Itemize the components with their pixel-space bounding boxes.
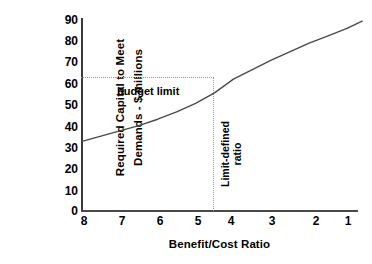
x-tick-2: 2 — [306, 214, 326, 228]
y-tick-30: 30 — [54, 142, 78, 154]
x-tick-3: 3 — [262, 214, 282, 228]
x-axis-line — [81, 210, 358, 212]
x-tick-8: 8 — [74, 214, 94, 228]
x-axis-tick-labels: 8 7 6 5 4 3 2 1 — [0, 214, 372, 234]
y-axis-line — [81, 18, 83, 212]
y-tick-70: 70 — [54, 56, 78, 68]
annotation-budget-limit: budget limit — [117, 85, 179, 97]
annotation-limit-defined-ratio: Limit-defined ratio — [214, 104, 248, 204]
y-tick-60: 60 — [54, 78, 78, 90]
budget-limit-guide-line — [81, 77, 214, 78]
y-axis-tick-labels: 90 80 70 60 50 40 30 20 10 0 — [52, 0, 78, 215]
y-tick-20: 20 — [54, 163, 78, 175]
x-tick-6: 6 — [150, 214, 170, 228]
annotation-limit-defined-ratio-line2: ratio — [231, 143, 243, 166]
x-tick-1: 1 — [338, 214, 358, 228]
x-tick-5: 5 — [188, 214, 208, 228]
y-tick-80: 80 — [54, 35, 78, 47]
y-tick-50: 50 — [54, 99, 78, 111]
annotation-limit-defined-ratio-line1: Limit-defined — [219, 121, 231, 187]
x-axis-title: Benefit/Cost Ratio — [82, 238, 357, 250]
y-tick-90: 90 — [54, 14, 78, 26]
y-axis-title: Required Capital to Meet Demands - $ mil… — [0, 0, 56, 215]
chart-figure: Required Capital to Meet Demands - $ mil… — [0, 0, 372, 264]
y-tick-10: 10 — [54, 185, 78, 197]
x-tick-7: 7 — [112, 214, 132, 228]
x-tick-4: 4 — [221, 214, 241, 228]
y-tick-40: 40 — [54, 121, 78, 133]
